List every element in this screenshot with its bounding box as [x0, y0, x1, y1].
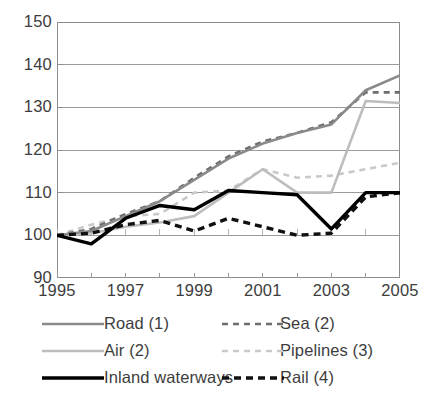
x-tick-label: 1995 — [29, 281, 85, 300]
x-tick-label: 2005 — [372, 281, 428, 300]
legend-swatch-rail-4-icon — [222, 371, 280, 385]
legend-item-road-1[interactable]: Road (1) — [42, 310, 222, 337]
legend-label: Inland waterways — [104, 369, 233, 386]
legend-item-air-2[interactable]: Air (2) — [42, 337, 222, 364]
legend-column-left: Road (1)Air (2)Inland waterways — [42, 310, 222, 391]
y-axis: 15014013012011010090 — [0, 0, 52, 300]
legend-swatch-air-2-icon — [42, 344, 104, 358]
chart-page: 15014013012011010090 1995199719992001200… — [0, 0, 430, 413]
legend-item-rail-4[interactable]: Rail (4) — [222, 364, 422, 391]
y-tick-label: 150 — [4, 12, 52, 31]
x-tick-label: 2003 — [303, 281, 359, 300]
series-line-sea-2 — [57, 92, 400, 235]
legend-label: Air (2) — [104, 342, 150, 359]
legend-swatch-sea-2-icon — [222, 317, 280, 331]
legend-label: Rail (4) — [280, 369, 334, 386]
plot-area — [57, 22, 400, 278]
legend-item-sea-2[interactable]: Sea (2) — [222, 310, 422, 337]
series-line-rail-4 — [57, 193, 400, 236]
legend-swatch-inland-waterways-icon — [42, 371, 104, 385]
y-tick-label: 120 — [4, 140, 52, 159]
y-tick-label: 130 — [4, 97, 52, 116]
y-tick-label: 110 — [4, 183, 52, 202]
legend-column-right: Sea (2)Pipelines (3)Rail (4) — [222, 310, 422, 391]
legend-swatch-pipelines-3-icon — [222, 344, 280, 358]
legend-item-pipelines-3[interactable]: Pipelines (3) — [222, 337, 422, 364]
legend-label: Road (1) — [104, 315, 169, 332]
x-tick-label: 1997 — [98, 281, 154, 300]
series-layer — [57, 22, 400, 278]
legend-label: Pipelines (3) — [280, 342, 373, 359]
legend-label: Sea (2) — [280, 315, 335, 332]
x-axis: 199519971999200120032005 — [0, 281, 430, 307]
x-tick-label: 1999 — [166, 281, 222, 300]
legend-swatch-road-1-icon — [42, 317, 104, 331]
y-tick-label: 100 — [4, 225, 52, 244]
legend-item-inland-waterways[interactable]: Inland waterways — [42, 364, 222, 391]
chart-legend: Road (1)Air (2)Inland waterways Sea (2)P… — [0, 310, 430, 410]
y-tick-label: 140 — [4, 55, 52, 74]
x-tick-label: 2001 — [235, 281, 291, 300]
line-chart: 15014013012011010090 1995199719992001200… — [0, 0, 430, 300]
